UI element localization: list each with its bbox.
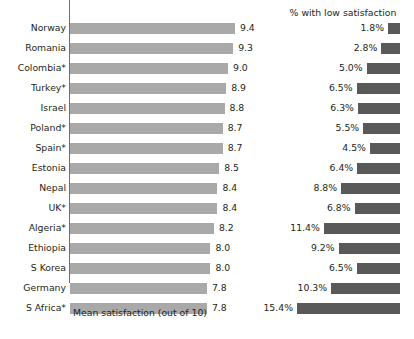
category-label: Germany — [0, 281, 66, 294]
mean-satisfaction-bar — [70, 183, 217, 194]
low-satisfaction-bar — [370, 143, 400, 154]
low-satisfaction-bar — [357, 263, 401, 274]
low-satisfaction-bar-track — [381, 43, 400, 54]
category-label: S Korea — [0, 261, 66, 274]
category-label: S Africa* — [0, 301, 66, 314]
category-label: Nepal — [0, 181, 66, 194]
category-label: Ethiopia — [0, 241, 66, 254]
category-label: Turkey* — [0, 81, 66, 94]
low-satisfaction-bar — [357, 163, 400, 174]
low-satisfaction-bar-track — [357, 263, 401, 274]
mean-satisfaction-bar — [70, 283, 207, 294]
mean-satisfaction-value: 8.7 — [228, 121, 243, 134]
low-satisfaction-value: 6.8% — [327, 201, 351, 214]
category-label: Romania — [0, 41, 66, 54]
chart-row: Romania9.32.8% — [0, 38, 414, 58]
mean-satisfaction-bar-track — [70, 183, 217, 194]
mean-satisfaction-bar-track — [70, 23, 235, 34]
mean-satisfaction-value: 8.8 — [230, 101, 245, 114]
mean-satisfaction-value: 8.5 — [224, 161, 239, 174]
mean-satisfaction-value: 7.8 — [212, 281, 227, 294]
mean-satisfaction-value: 8.0 — [215, 241, 230, 254]
category-label: Algeria* — [0, 221, 66, 234]
low-satisfaction-bar-track — [339, 243, 401, 254]
chart-row: UK*8.46.8% — [0, 198, 414, 218]
low-satisfaction-bar — [339, 243, 401, 254]
chart-row: Spain*8.74.5% — [0, 138, 414, 158]
low-satisfaction-bar-track — [363, 123, 400, 134]
chart-row: S Korea8.06.5% — [0, 258, 414, 278]
low-satisfaction-bar-track — [358, 103, 400, 114]
low-satisfaction-value: 8.8% — [313, 181, 337, 194]
mean-satisfaction-value: 8.7 — [228, 141, 243, 154]
mean-satisfaction-value: 8.4 — [222, 181, 237, 194]
chart-row: Germany7.810.3% — [0, 278, 414, 298]
mean-satisfaction-value: 8.0 — [215, 261, 230, 274]
mean-satisfaction-value: 9.4 — [240, 21, 255, 34]
mean-satisfaction-bar-track — [70, 263, 210, 274]
mean-satisfaction-bar — [70, 123, 223, 134]
category-label: Spain* — [0, 141, 66, 154]
mean-satisfaction-bar — [70, 263, 210, 274]
low-satisfaction-bar-track — [357, 163, 400, 174]
chart-row: Turkey*8.96.5% — [0, 78, 414, 98]
mean-satisfaction-bar-track — [70, 283, 207, 294]
x-axis-caption: Mean satisfaction (out of 10) — [70, 306, 210, 319]
mean-satisfaction-bar-track — [70, 203, 217, 214]
category-label: Israel — [0, 101, 66, 114]
mean-satisfaction-bar — [70, 143, 223, 154]
low-satisfaction-bar — [297, 303, 400, 314]
low-satisfaction-bar — [324, 223, 400, 234]
mean-satisfaction-bar — [70, 43, 233, 54]
low-satisfaction-bar — [381, 43, 400, 54]
chart-row: Estonia8.56.4% — [0, 158, 414, 178]
low-satisfaction-value: 11.4% — [290, 221, 320, 234]
mean-satisfaction-bar — [70, 23, 235, 34]
mean-satisfaction-bar-track — [70, 163, 219, 174]
low-satisfaction-value: 6.3% — [330, 101, 354, 114]
mean-satisfaction-bar — [70, 103, 225, 114]
low-satisfaction-value: 6.5% — [329, 81, 353, 94]
category-label: Poland* — [0, 121, 66, 134]
chart-row: Algeria*8.211.4% — [0, 218, 414, 238]
low-satisfaction-value: 2.8% — [354, 41, 378, 54]
mean-satisfaction-bar-track — [70, 83, 226, 94]
category-label: Estonia — [0, 161, 66, 174]
low-satisfaction-bar — [355, 203, 401, 214]
low-satisfaction-bar-track — [341, 183, 400, 194]
chart-row: Israel8.86.3% — [0, 98, 414, 118]
low-satisfaction-bar — [388, 23, 400, 34]
mean-satisfaction-bar-track — [70, 123, 223, 134]
mean-satisfaction-bar — [70, 243, 210, 254]
low-satisfaction-value: 1.8% — [360, 21, 384, 34]
mean-satisfaction-bar — [70, 203, 217, 214]
mean-satisfaction-value: 8.9 — [231, 81, 246, 94]
chart-row: Norway9.41.8% — [0, 18, 414, 38]
category-label: UK* — [0, 201, 66, 214]
chart-row: Nepal8.48.8% — [0, 178, 414, 198]
mean-satisfaction-bar — [70, 63, 228, 74]
category-label: Norway — [0, 21, 66, 34]
low-satisfaction-value: 5.0% — [339, 61, 363, 74]
low-satisfaction-bar-track — [357, 83, 401, 94]
low-satisfaction-value: 4.5% — [342, 141, 366, 154]
mean-satisfaction-bar-track — [70, 143, 223, 154]
low-satisfaction-bar — [358, 103, 400, 114]
low-satisfaction-value: 9.2% — [311, 241, 335, 254]
chart-row: Colombia*9.05.0% — [0, 58, 414, 78]
low-satisfaction-bar-track — [388, 23, 400, 34]
low-satisfaction-bar — [341, 183, 400, 194]
low-satisfaction-value: 5.5% — [336, 121, 360, 134]
low-satisfaction-bar-track — [324, 223, 400, 234]
mean-satisfaction-bar-track — [70, 223, 214, 234]
chart-rows: Norway9.41.8%Romania9.32.8%Colombia*9.05… — [0, 18, 414, 318]
mean-satisfaction-bar-track — [70, 43, 233, 54]
low-satisfaction-bar-track — [297, 303, 400, 314]
mean-satisfaction-value: 9.3 — [238, 41, 253, 54]
category-label: Colombia* — [0, 61, 66, 74]
chart-container: % with low satisfaction Norway9.41.8%Rom… — [0, 0, 414, 339]
mean-satisfaction-value: 9.0 — [233, 61, 248, 74]
low-satisfaction-bar-track — [355, 203, 401, 214]
low-satisfaction-bar — [357, 83, 401, 94]
mean-satisfaction-bar-track — [70, 63, 228, 74]
